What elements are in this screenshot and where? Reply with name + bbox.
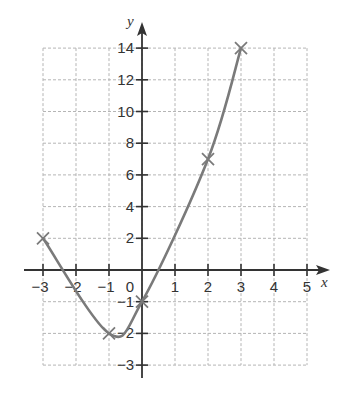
y-tick-label: 14 bbox=[117, 39, 134, 56]
x-tick-label: 4 bbox=[270, 278, 278, 295]
y-tick-label: 8 bbox=[126, 134, 134, 151]
x-axis-label: x bbox=[320, 274, 328, 290]
axes bbox=[24, 22, 330, 378]
y-tick-label: 10 bbox=[117, 103, 134, 120]
x-tick-label: −1 bbox=[97, 278, 114, 295]
x-tick-label: 2 bbox=[204, 278, 212, 295]
x-tick-label: 3 bbox=[237, 278, 245, 295]
y-tick-label: 2 bbox=[126, 229, 134, 246]
y-tick-label: −1 bbox=[117, 293, 134, 310]
x-tick-label: 5 bbox=[303, 278, 311, 295]
chart: −3−2−10123452468101214−1−2−3 x y bbox=[0, 0, 348, 399]
y-tick-label: 4 bbox=[126, 198, 134, 215]
y-tick-label: 6 bbox=[126, 166, 134, 183]
x-tick-label: 1 bbox=[171, 278, 179, 295]
y-axis-label: y bbox=[125, 13, 134, 29]
x-tick-label: −3 bbox=[31, 278, 48, 295]
y-tick-label: 12 bbox=[117, 71, 134, 88]
y-tick-label: −3 bbox=[117, 356, 134, 373]
grid-lines bbox=[43, 48, 307, 365]
